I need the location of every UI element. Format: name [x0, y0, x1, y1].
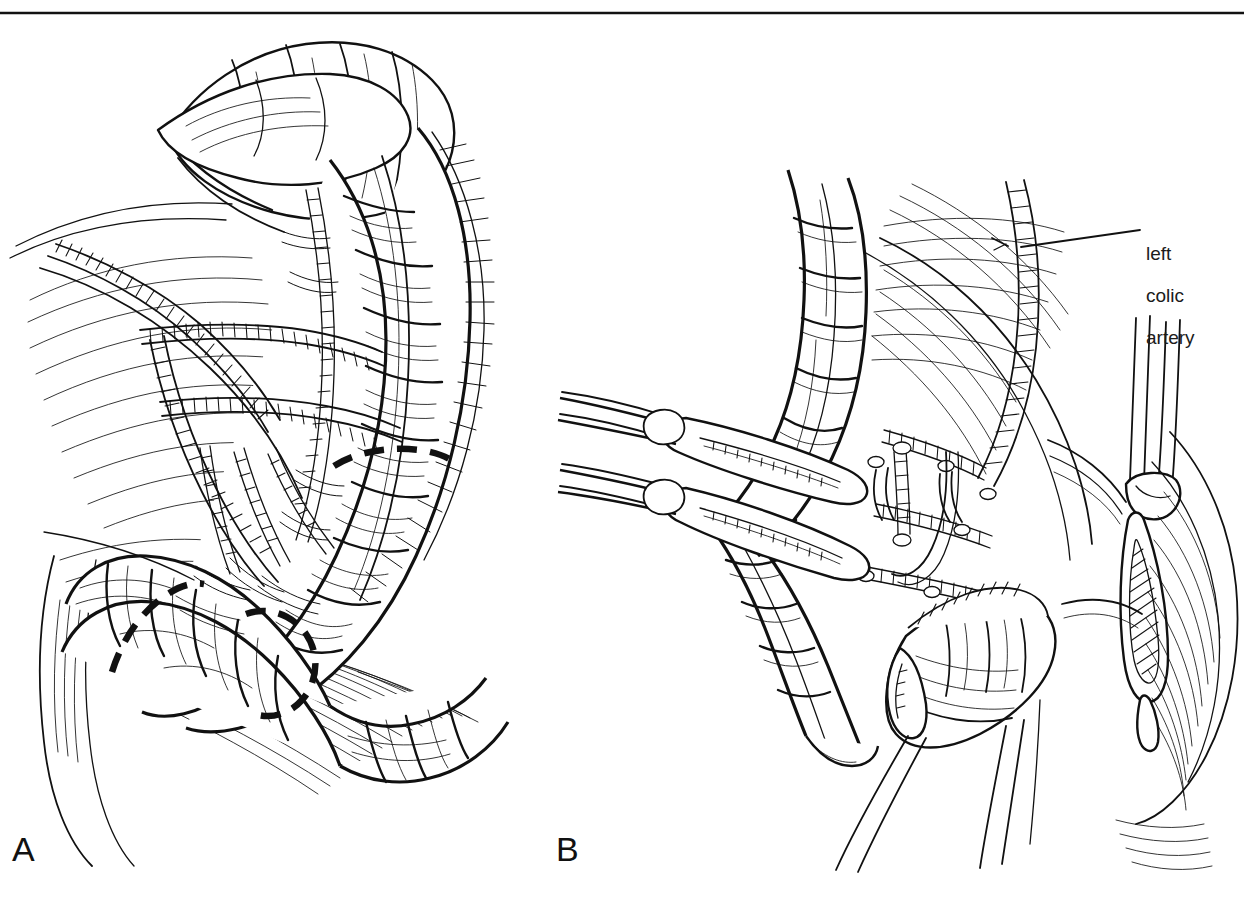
left-colic-artery-label-line-1: left	[1146, 243, 1195, 264]
panel-a-label: A	[12, 832, 35, 866]
left-colic-artery-label-line-2: colic	[1146, 285, 1195, 306]
panel-a-illustration	[10, 42, 508, 866]
surgical-illustration-canvas: .ln { fill:none; stroke:#111111; stroke-…	[0, 0, 1244, 897]
leader-line-left-colic-artery	[1021, 230, 1140, 247]
left-colic-artery-label-line-3: artery	[1146, 327, 1195, 348]
figure-root: .ln { fill:none; stroke:#111111; stroke-…	[0, 0, 1244, 897]
left-colic-artery-label: left colic artery	[1146, 222, 1195, 369]
panel-b-label: B	[556, 832, 579, 866]
panel-b-illustration	[558, 170, 1238, 872]
left-colic-artery-vessel	[978, 180, 1039, 486]
vessel-ligatures-panel-b	[858, 442, 996, 598]
clamped-specimen-panel-b	[836, 582, 1055, 872]
